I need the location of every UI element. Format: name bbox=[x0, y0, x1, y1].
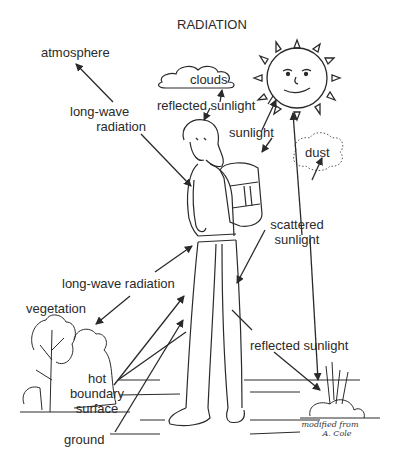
label-reflected-sunlight-bottom: reflected sunlight bbox=[250, 338, 348, 353]
diagram-illustration bbox=[0, 0, 401, 465]
credit-attribution: modified from A. Cole bbox=[298, 420, 362, 438]
label-long-wave-radiation-top: long-wave radiation bbox=[70, 104, 160, 134]
label-scattered-line2: sunlight bbox=[266, 232, 328, 247]
label-hot-line3: surface bbox=[68, 401, 126, 416]
label-ground: ground bbox=[64, 432, 104, 447]
credit-line2: A. Cole bbox=[298, 429, 362, 438]
label-vegetation: vegetation bbox=[26, 301, 86, 316]
credit-line1: modified from bbox=[298, 420, 362, 429]
sun-icon bbox=[254, 40, 340, 120]
label-scattered-line1: scattered bbox=[266, 217, 328, 232]
label-clouds: clouds bbox=[190, 72, 228, 87]
label-long-wave-line2: radiation bbox=[70, 119, 160, 134]
label-hot-boundary-surface: hot boundary surface bbox=[68, 371, 126, 416]
label-atmosphere: atmosphere bbox=[41, 45, 110, 60]
diagram-title: RADIATION bbox=[177, 17, 247, 32]
label-reflected-sunlight-top: reflected sunlight bbox=[157, 98, 255, 113]
label-long-wave-radiation-mid: long-wave radiation bbox=[62, 276, 175, 291]
label-dust: dust bbox=[305, 145, 330, 160]
label-long-wave-line1: long-wave bbox=[70, 104, 160, 119]
label-hot-line2: boundary bbox=[68, 386, 126, 401]
label-sunlight: sunlight bbox=[229, 125, 274, 140]
label-hot-line1: hot bbox=[68, 371, 126, 386]
label-scattered-sunlight: scattered sunlight bbox=[266, 217, 328, 247]
